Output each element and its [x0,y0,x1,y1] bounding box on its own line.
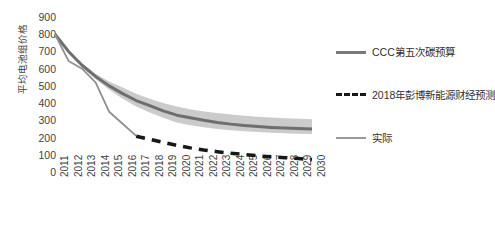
legend-item-1[interactable]: 2018年彭博新能源财经预测 [336,87,486,103]
legend-swatch-icon [336,132,366,144]
chart-legend: CCC第五次碳预算2018年彭博新能源财经预测实际 [336,44,486,173]
legend-item-2[interactable]: 实际 [336,130,486,146]
uncertainty-band [55,34,312,134]
series-line-2018年彭博新能源财经预测 [136,136,312,159]
legend-label: CCC第五次碳预算 [372,46,455,58]
series-band-CCC第五次碳预算 [55,34,312,134]
legend-label: 2018年彭博新能源财经预测 [372,89,495,101]
legend-swatch-icon [336,89,366,101]
legend-swatch-icon [336,46,366,58]
legend-item-0[interactable]: CCC第五次碳预算 [336,44,486,60]
series-lines [55,34,312,159]
legend-label: 实际 [372,132,392,144]
